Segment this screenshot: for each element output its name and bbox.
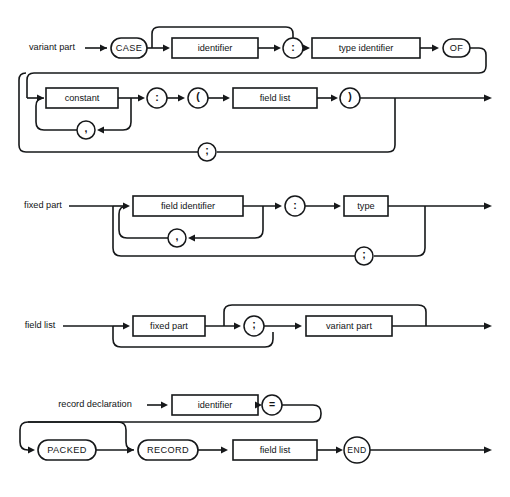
node-recorddecl-identifier-label: identifier	[198, 400, 233, 410]
node-fixedpart-colon-label: :	[293, 199, 297, 211]
entry-label-field-list: field list	[25, 320, 56, 330]
node-colon-label: :	[291, 41, 295, 53]
railroad-diagram-canvas: variant part CASE identifier : type iden…	[0, 0, 510, 497]
node-field-identifier-label: field identifier	[161, 201, 215, 211]
node-constant-label: constant	[65, 93, 100, 103]
node-type-identifier-label: type identifier	[339, 43, 394, 53]
railroad-diagram-page: variant part CASE identifier : type iden…	[0, 0, 510, 497]
node-end-keyword-label: END	[347, 445, 366, 455]
node-semicolon-label: ;	[205, 144, 209, 156]
entry-label-fixed-part: fixed part	[24, 200, 62, 210]
node-case-keyword-label: CASE	[116, 43, 143, 53]
node-of-keyword-label: OF	[450, 43, 464, 53]
node-colon2-label: :	[155, 91, 159, 103]
node-rparen-label: )	[348, 90, 352, 102]
entry-label-variant-part: variant part	[29, 42, 75, 52]
node-lparen-label: (	[196, 90, 200, 102]
node-fixed-part-ref-label: fixed part	[150, 321, 188, 331]
node-fixedpart-comma-label: ,	[176, 230, 179, 242]
node-variant-part-ref-label: variant part	[326, 321, 372, 331]
node-packed-keyword-label: PACKED	[47, 445, 87, 455]
node-type-label: type	[357, 201, 374, 211]
node-identifier-label: identifier	[198, 43, 233, 53]
node-field-list-label: field list	[260, 93, 291, 103]
node-comma-label: ,	[85, 122, 88, 134]
node-equals-label: =	[269, 398, 275, 410]
node-record-keyword-label: RECORD	[147, 445, 189, 455]
node-recorddecl-field-list-label: field list	[260, 445, 291, 455]
node-fixedpart-semicolon-label: ;	[362, 248, 366, 260]
node-fieldlist-semicolon-label: ;	[252, 318, 256, 330]
entry-label-record-declaration: record declaration	[58, 399, 132, 409]
